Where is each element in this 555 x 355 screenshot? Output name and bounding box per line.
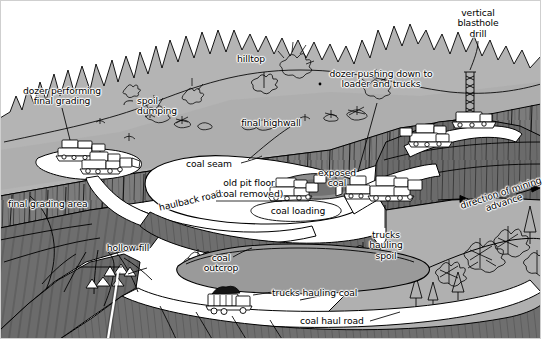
label-coal-seam: coal seam xyxy=(176,159,242,169)
label-trucks-hauling-spoil: trucks hauling spoil xyxy=(360,230,412,261)
label-dozer-final-grading: dozer performing final grading xyxy=(8,86,116,107)
label-final-highwall: final highwall xyxy=(226,118,316,128)
label-hollow-fill: hollow fill xyxy=(93,243,163,253)
label-old-pit-floor: old pit floor xyxy=(200,178,298,188)
label-exposed-coal: exposed coal xyxy=(306,168,368,189)
label-dozer-pushing-down: dozer pushing down to loader and trucks xyxy=(316,69,446,90)
label-spoil-dumping: spoil dumping xyxy=(137,96,197,117)
label-hilltop: hilltop xyxy=(228,54,274,64)
label-coal-loading: coal loading xyxy=(258,206,338,216)
label-vertical-blasthole-drill: vertical blasthole drill xyxy=(446,8,510,39)
label-trucks-hauling-coal: trucks hauling coal xyxy=(272,288,390,298)
diagram-canvas: dozer performing final grading spoil dum… xyxy=(0,0,555,355)
label-final-grading-area: final grading area xyxy=(8,199,120,209)
label-coal-outcrop: coal outcrop xyxy=(192,253,250,274)
label-coal-haul-road: coal haul road xyxy=(300,316,396,326)
